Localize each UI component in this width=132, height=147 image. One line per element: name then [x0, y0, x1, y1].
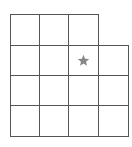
grid-cell[interactable]: [68, 105, 99, 137]
grid-cell[interactable]: [68, 75, 99, 106]
grid-cell[interactable]: [98, 45, 129, 76]
grid-cell[interactable]: [39, 14, 69, 46]
grid-cell[interactable]: [39, 105, 69, 137]
grid-cell[interactable]: [10, 75, 40, 106]
grid-cell[interactable]: [10, 105, 40, 137]
grid-cell[interactable]: [98, 105, 129, 137]
grid-cell[interactable]: [39, 45, 69, 76]
grid-cell[interactable]: [10, 45, 40, 76]
grid-cell[interactable]: [10, 14, 40, 46]
grid-cell[interactable]: [98, 75, 129, 106]
star-icon: [77, 54, 90, 67]
grid-cell[interactable]: [68, 14, 99, 46]
grid-cell[interactable]: [39, 75, 69, 106]
grid-board: [0, 0, 132, 147]
